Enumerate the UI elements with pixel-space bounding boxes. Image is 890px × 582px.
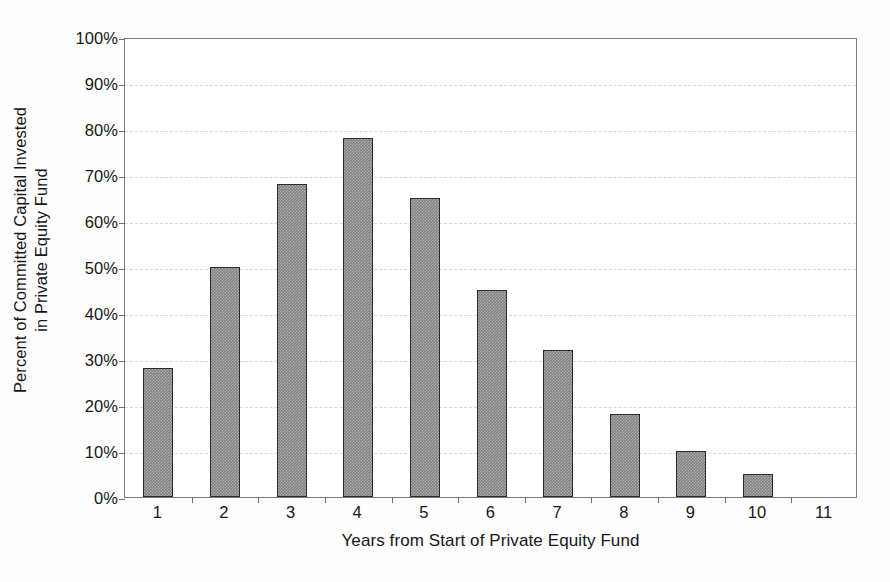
x-axis-tick-label: 11 bbox=[815, 503, 832, 522]
y-axis-tick-mark bbox=[119, 499, 125, 500]
plot-inner bbox=[125, 39, 856, 497]
x-axis-tick-label: 10 bbox=[748, 503, 767, 522]
y-axis-tick-label: 70% bbox=[60, 167, 118, 186]
y-axis-tick-label: 0% bbox=[60, 489, 118, 508]
y-axis-tick-mark bbox=[119, 177, 125, 178]
bar bbox=[743, 474, 773, 497]
bar bbox=[277, 184, 307, 497]
y-axis-tick-label: 40% bbox=[60, 305, 118, 324]
y-axis-tick-mark bbox=[119, 453, 125, 454]
x-axis-tick-labels: 1234567891011 bbox=[124, 503, 857, 529]
gridline-y bbox=[125, 223, 856, 224]
y-axis-title-text: Percent of Committed Capital Invested in… bbox=[10, 107, 52, 393]
plot-area bbox=[124, 38, 857, 498]
y-axis-tick-label: 80% bbox=[60, 121, 118, 140]
y-axis-tick-mark bbox=[119, 315, 125, 316]
y-axis-tick-mark bbox=[119, 85, 125, 86]
gridline-y bbox=[125, 177, 856, 178]
y-axis-tick-label: 10% bbox=[60, 443, 118, 462]
y-axis-tick-mark bbox=[119, 361, 125, 362]
x-axis-tick-label: 2 bbox=[219, 503, 228, 522]
x-axis-tick-label: 5 bbox=[419, 503, 428, 522]
x-axis-tick-label: 6 bbox=[486, 503, 495, 522]
y-axis-tick-label: 60% bbox=[60, 213, 118, 232]
y-axis-tick-label: 20% bbox=[60, 397, 118, 416]
y-axis-title-line-2: in Private Equity Fund bbox=[31, 107, 52, 393]
y-axis-tick-mark bbox=[119, 39, 125, 40]
y-axis-tick-label: 30% bbox=[60, 351, 118, 370]
y-axis-tick-mark bbox=[119, 269, 125, 270]
x-axis-tick-label: 8 bbox=[619, 503, 628, 522]
x-axis-tick-label: 1 bbox=[153, 503, 162, 522]
bar-chart-figure: Percent of Committed Capital Invested in… bbox=[0, 0, 890, 582]
y-axis-title: Percent of Committed Capital Invested in… bbox=[0, 0, 62, 500]
x-axis-tick-label: 4 bbox=[353, 503, 362, 522]
bar bbox=[143, 368, 173, 497]
y-axis-tick-mark bbox=[119, 131, 125, 132]
bar bbox=[676, 451, 706, 497]
y-axis-tick-label: 100% bbox=[60, 29, 118, 48]
x-axis-title: Years from Start of Private Equity Fund bbox=[124, 531, 857, 551]
x-axis-tick-label: 3 bbox=[286, 503, 295, 522]
y-axis-tick-mark bbox=[119, 223, 125, 224]
bar bbox=[210, 267, 240, 497]
y-axis-tick-label: 90% bbox=[60, 75, 118, 94]
bar bbox=[477, 290, 507, 497]
y-axis-tick-label: 50% bbox=[60, 259, 118, 278]
x-axis-tick-label: 7 bbox=[552, 503, 561, 522]
gridline-y bbox=[125, 131, 856, 132]
y-axis-tick-labels: 0%10%20%30%40%50%60%70%80%90%100% bbox=[56, 0, 118, 582]
bar bbox=[543, 350, 573, 497]
bar bbox=[343, 138, 373, 497]
x-axis-tick-label: 9 bbox=[686, 503, 695, 522]
y-axis-tick-mark bbox=[119, 407, 125, 408]
y-axis-title-line-1: Percent of Committed Capital Invested bbox=[11, 107, 29, 393]
gridline-y bbox=[125, 85, 856, 86]
bar bbox=[410, 198, 440, 497]
bar bbox=[610, 414, 640, 497]
